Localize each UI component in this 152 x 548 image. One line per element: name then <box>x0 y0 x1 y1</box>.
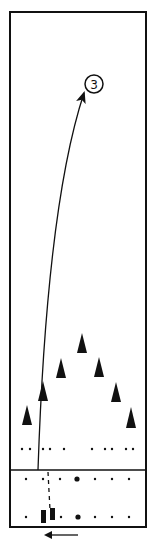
cone-icon <box>111 382 121 402</box>
cone-icon <box>126 407 136 428</box>
marker-dot <box>125 448 127 450</box>
marker-dot <box>91 448 93 450</box>
marker-dot <box>132 448 134 450</box>
cone-icon <box>94 357 104 377</box>
marker-dot-large <box>74 476 79 481</box>
marker-dot <box>63 448 65 450</box>
target-circle-3: 3 <box>85 75 103 93</box>
marker-dot <box>94 516 96 518</box>
marker-dot <box>21 448 23 450</box>
marker-dot <box>128 478 130 480</box>
marker-dot <box>111 448 113 450</box>
pass-path-dashed <box>48 472 50 510</box>
marker-dot <box>25 516 27 518</box>
cone-icon <box>38 381 48 401</box>
cones <box>22 333 136 428</box>
marker-dot <box>111 516 113 518</box>
marker-dot <box>25 478 27 480</box>
cone-icon <box>56 358 66 378</box>
marker-dot-large <box>75 514 80 519</box>
cone-icon <box>77 333 87 353</box>
run-path-solid-arrow <box>38 93 84 470</box>
marker-dot <box>128 516 130 518</box>
marker-dot <box>29 448 31 450</box>
player-marker <box>41 510 46 523</box>
player-marker <box>50 508 55 520</box>
target-label: 3 <box>90 78 98 92</box>
marker-dot <box>59 478 61 480</box>
marker-dot <box>49 448 51 450</box>
marker-dot <box>42 448 44 450</box>
marker-dot <box>94 478 96 480</box>
marker-dot <box>104 448 106 450</box>
marker-dot <box>60 516 62 518</box>
marker-dot <box>42 478 44 480</box>
marker-dot <box>111 478 113 480</box>
drill-diagram: 3 <box>0 0 152 548</box>
cone-icon <box>22 405 32 425</box>
players <box>41 508 55 523</box>
